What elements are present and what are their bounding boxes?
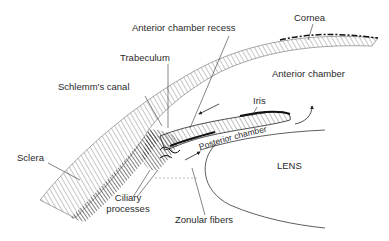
label-cornea: Cornea bbox=[294, 12, 325, 23]
iris-shape bbox=[160, 111, 290, 150]
label-sclera: Sclera bbox=[17, 152, 44, 163]
label-iris: Iris bbox=[253, 95, 266, 106]
label-trabeculum: Trabeculum bbox=[120, 52, 170, 63]
label-anterior-chamber: Anterior chamber bbox=[272, 68, 345, 79]
label-schlemms-canal: Schlemm's canal bbox=[58, 81, 130, 92]
label-anterior-chamber-recess: Anterior chamber recess bbox=[132, 22, 235, 33]
diagram-drawing: Posterior chamber bbox=[0, 0, 389, 241]
eye-anatomy-diagram: Posterior chamber Cornea Anterior chambe… bbox=[0, 0, 389, 241]
label-zonular-fibers: Zonular fibers bbox=[175, 214, 233, 225]
label-ciliary-processes: Ciliary processes bbox=[104, 192, 152, 214]
label-ciliary-line2: processes bbox=[104, 203, 152, 214]
label-ciliary-line1: Ciliary bbox=[104, 192, 152, 203]
label-lens: LENS bbox=[277, 160, 302, 171]
